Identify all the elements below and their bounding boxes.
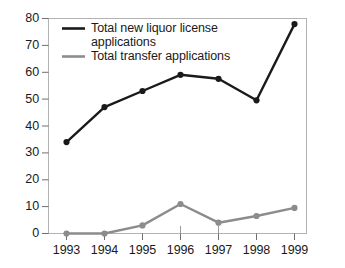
y-tick-label-60: 60 xyxy=(10,65,39,79)
x-axis-inner-ticks xyxy=(181,226,219,234)
y-tick-label-40: 40 xyxy=(10,119,39,133)
legend-label-transfer: Total transfer applications xyxy=(91,49,230,63)
line-chart: 80 70 60 50 40 30 20 10 0 1993 1994 1995… xyxy=(0,0,345,268)
y-tick-label-10: 10 xyxy=(10,199,39,213)
y-axis-ticks xyxy=(42,19,49,234)
y-tick-label-0: 0 xyxy=(10,226,39,240)
y-tick-label-50: 50 xyxy=(10,92,39,106)
y-tick-label-30: 30 xyxy=(10,145,39,159)
y-tick-label-80: 80 xyxy=(10,11,39,25)
x-tick-label-1999: 1999 xyxy=(270,243,320,257)
legend-label-new-licenses: Total new liquor license applications xyxy=(91,21,218,49)
y-tick-label-70: 70 xyxy=(10,38,39,52)
y-tick-label-20: 20 xyxy=(10,172,39,186)
